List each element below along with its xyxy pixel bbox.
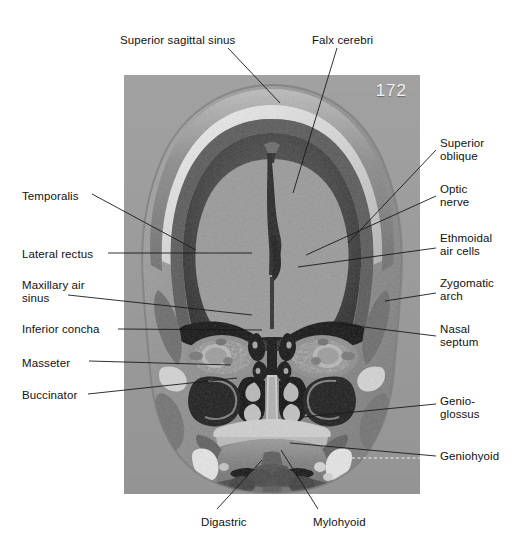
label-optic-nerve: Optic nerve — [440, 183, 469, 209]
label-ethmoidal-air-cells: Ethmoidal air cells — [440, 232, 492, 258]
label-genioglossus: Genio- glossus — [440, 395, 480, 421]
label-geniohyoid: Geniohyoid — [440, 450, 499, 463]
label-masseter: Masseter — [22, 357, 70, 370]
label-lateral-rectus: Lateral rectus — [22, 248, 93, 261]
label-temporalis: Temporalis — [22, 190, 79, 203]
anatomy-figure: 172 Superior sagittal sinus Falx cerebri — [0, 0, 527, 556]
label-mylohyoid: Mylohyoid — [313, 516, 366, 529]
plate-number: 172 — [376, 81, 407, 101]
specimen-photo-panel: 172 — [124, 75, 420, 494]
label-superior-sagittal-sinus: Superior sagittal sinus — [120, 34, 235, 47]
label-buccinator: Buccinator — [22, 389, 77, 402]
label-nasal-septum: Nasal septum — [440, 323, 478, 349]
coronal-head-section-image — [124, 75, 420, 494]
label-falx-cerebri: Falx cerebri — [312, 34, 373, 47]
label-digastric: Digastric — [201, 516, 247, 529]
label-maxillary-air-sinus: Maxillary air sinus — [22, 279, 85, 305]
label-inferior-concha: Inferior concha — [22, 323, 100, 336]
label-superior-oblique: Superior oblique — [440, 137, 484, 163]
label-zygomatic-arch: Zygomatic arch — [440, 277, 494, 303]
